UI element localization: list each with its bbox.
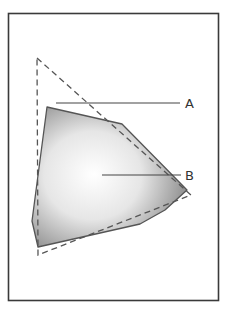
callout-a-label: A: [185, 96, 194, 111]
callout-b-label: B: [185, 168, 194, 183]
callout-a: A: [56, 96, 194, 111]
shaded-gamut-region: [32, 107, 187, 247]
gamut-diagram: A B: [0, 0, 231, 312]
